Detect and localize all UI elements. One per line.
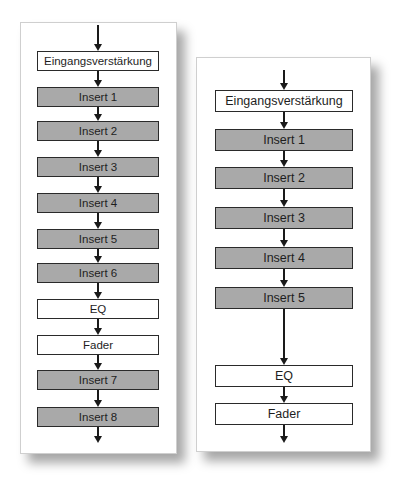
stage-insert-8: Insert 8 bbox=[37, 407, 159, 427]
stage-insert-7: Insert 7 bbox=[37, 370, 159, 390]
stage-fader: Fader bbox=[215, 403, 353, 425]
signal-chain-panel-left: Eingangsverstärkung Insert 1 Insert 2 In… bbox=[20, 22, 177, 454]
signal-chain-panel-right: Eingangsverstärkung Insert 1 Insert 2 In… bbox=[196, 57, 371, 452]
stage-label: Insert 5 bbox=[263, 291, 305, 305]
flow-arrow-head-icon bbox=[280, 122, 288, 129]
stage-insert-2: Insert 2 bbox=[215, 167, 353, 189]
flow-arrow-head-icon bbox=[94, 436, 102, 443]
stage-input-gain: Eingangsverstärkung bbox=[37, 51, 159, 71]
stage-insert-6: Insert 6 bbox=[37, 263, 159, 283]
flow-arrow-head-icon bbox=[94, 292, 102, 299]
flow-arrow-head-icon bbox=[280, 240, 288, 247]
stage-label: Insert 3 bbox=[263, 211, 305, 225]
flow-arrow-head-icon bbox=[280, 358, 288, 365]
flow-arrow-head-icon bbox=[280, 200, 288, 207]
stage-label: Eingangsverstärkung bbox=[44, 55, 152, 67]
stage-eq: EQ bbox=[37, 299, 159, 319]
stage-label: Eingangsverstärkung bbox=[225, 94, 342, 108]
stage-label: Insert 8 bbox=[79, 411, 117, 423]
stage-label: Insert 4 bbox=[79, 197, 117, 209]
stage-input-gain: Eingangsverstärkung bbox=[215, 90, 353, 112]
flow-arrow-head-icon bbox=[94, 328, 102, 335]
flow-arrow-head-icon bbox=[280, 396, 288, 403]
stage-eq: EQ bbox=[215, 365, 353, 387]
stage-label: Insert 2 bbox=[263, 171, 305, 185]
stage-insert-3: Insert 3 bbox=[215, 207, 353, 229]
stage-fader: Fader bbox=[37, 335, 159, 355]
flow-arrow-head-icon bbox=[280, 83, 288, 90]
flow-arrow-head-icon bbox=[94, 363, 102, 370]
flow-arrow-head-icon bbox=[280, 436, 288, 443]
flow-arrow-head-icon bbox=[280, 280, 288, 287]
stage-insert-4: Insert 4 bbox=[215, 247, 353, 269]
stage-insert-2: Insert 2 bbox=[37, 121, 159, 141]
stage-label: Insert 3 bbox=[79, 161, 117, 173]
stage-insert-3: Insert 3 bbox=[37, 157, 159, 177]
flow-arrow-head-icon bbox=[94, 44, 102, 51]
stage-label: Insert 5 bbox=[79, 233, 117, 245]
flow-arrow-head-icon bbox=[94, 80, 102, 87]
flow-arrow-head-icon bbox=[94, 150, 102, 157]
stage-label: Insert 7 bbox=[79, 374, 117, 386]
flow-arrow-head-icon bbox=[94, 114, 102, 121]
flow-arrow-head-icon bbox=[94, 186, 102, 193]
stage-insert-5: Insert 5 bbox=[37, 229, 159, 249]
stage-label: Fader bbox=[268, 407, 301, 421]
flow-arrow-head-icon bbox=[94, 400, 102, 407]
stage-label: EQ bbox=[90, 303, 107, 315]
flow-arrow-head-icon bbox=[280, 160, 288, 167]
flow-arrow-head-icon bbox=[94, 256, 102, 263]
stage-label: Insert 1 bbox=[263, 133, 305, 147]
stage-label: Fader bbox=[83, 339, 113, 351]
stage-insert-1: Insert 1 bbox=[215, 129, 353, 151]
stage-insert-4: Insert 4 bbox=[37, 193, 159, 213]
flow-arrow-head-icon bbox=[94, 222, 102, 229]
stage-label: Insert 4 bbox=[263, 251, 305, 265]
stage-insert-1: Insert 1 bbox=[37, 87, 159, 107]
stage-label: Insert 2 bbox=[79, 125, 117, 137]
stage-label: EQ bbox=[275, 369, 293, 383]
stage-insert-5: Insert 5 bbox=[215, 287, 353, 309]
stage-label: Insert 1 bbox=[79, 91, 117, 103]
stage-label: Insert 6 bbox=[79, 267, 117, 279]
